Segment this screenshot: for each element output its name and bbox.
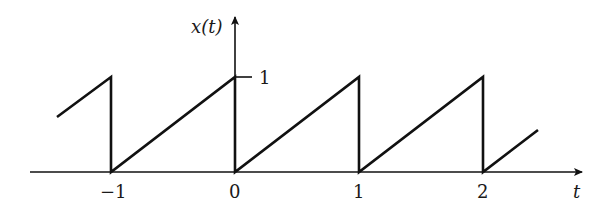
x-tick-label-0: 0 bbox=[229, 181, 240, 202]
x-tick-label-1: 1 bbox=[353, 181, 364, 202]
x-tick-label-2: 2 bbox=[477, 181, 488, 202]
sawtooth-plot: x(t) 1 −1 0 1 2 t bbox=[0, 0, 608, 207]
sawtooth-waveform bbox=[57, 77, 538, 172]
x-tick-label-minus-1: −1 bbox=[100, 181, 127, 202]
y-tick-label-1: 1 bbox=[259, 67, 270, 88]
x-axis-label: t bbox=[573, 181, 581, 202]
y-axis-label: x(t) bbox=[191, 16, 222, 37]
